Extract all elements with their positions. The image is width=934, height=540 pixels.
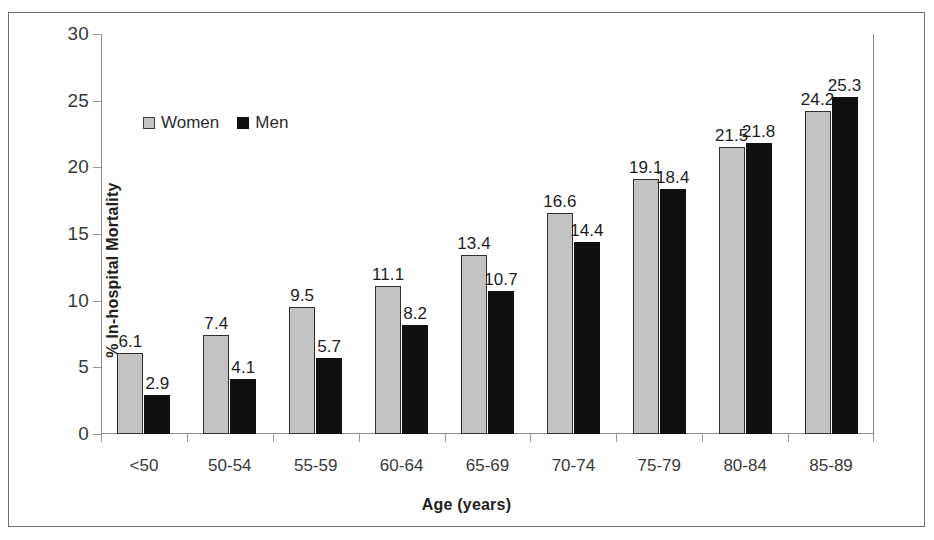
y-axis-tick-label: 0: [78, 423, 89, 445]
bar-group: 21.521.880-84: [702, 34, 788, 434]
x-axis-tick: [873, 434, 874, 442]
x-axis-tick: [359, 434, 360, 442]
bar-value-label: 2.9: [145, 374, 169, 394]
bar-women-<50[interactable]: 6.1: [117, 353, 143, 434]
bar-value-label: 9.5: [290, 286, 314, 306]
bar-value-label: 7.4: [204, 314, 228, 334]
y-axis-tick-label: 25: [67, 90, 89, 112]
bar-men-80-84[interactable]: 21.8: [746, 143, 772, 434]
y-axis-tick: [93, 34, 101, 35]
bar-value-label: 16.6: [543, 192, 577, 212]
bar-value-label: 6.1: [118, 332, 142, 352]
bar-group: 16.614.470-74: [530, 34, 616, 434]
bar-group: 19.118.475-79: [616, 34, 702, 434]
bar-value-label: 10.7: [484, 270, 518, 290]
bar-group: 7.44.150-54: [187, 34, 273, 434]
bar-men-50-54[interactable]: 4.1: [230, 379, 256, 434]
y-axis-tick-label: 20: [67, 156, 89, 178]
bar-men-75-79[interactable]: 18.4: [660, 189, 686, 434]
y-axis-tick: [93, 234, 101, 235]
bar-women-70-74[interactable]: 16.6: [547, 213, 573, 434]
bar-women-50-54[interactable]: 7.4: [203, 335, 229, 434]
bar-value-label: 14.4: [570, 221, 604, 241]
bar-group: 6.12.9<50: [101, 34, 187, 434]
bar-group: 13.410.765-69: [445, 34, 531, 434]
x-axis-tick: [616, 434, 617, 442]
bar-group: 9.55.755-59: [273, 34, 359, 434]
bar-group: 24.225.385-89: [788, 34, 874, 434]
y-axis-tick-label: 5: [78, 356, 89, 378]
bar-men-85-89[interactable]: 25.3: [832, 97, 858, 434]
bar-value-label: 13.4: [457, 234, 491, 254]
y-axis-tick: [93, 101, 101, 102]
bar-group: 11.18.260-64: [359, 34, 445, 434]
bar-value-label: 18.4: [656, 168, 690, 188]
x-axis-tick: [702, 434, 703, 442]
x-axis-title: Age (years): [9, 496, 924, 514]
x-axis-tick: [530, 434, 531, 442]
y-axis-tick: [93, 367, 101, 368]
chart-figure-frame: % In-hospital Mortality Women Men 051015…: [8, 12, 925, 527]
bar-women-80-84[interactable]: 21.5: [719, 147, 745, 434]
bar-women-60-64[interactable]: 11.1: [375, 286, 401, 434]
y-axis-tick-label: 15: [67, 223, 89, 245]
bar-value-label: 5.7: [317, 337, 341, 357]
bar-women-65-69[interactable]: 13.4: [461, 255, 487, 434]
y-axis-tick: [93, 167, 101, 168]
bar-value-label: 8.2: [403, 304, 427, 324]
y-axis-tick-label: 10: [67, 290, 89, 312]
x-axis-tick: [445, 434, 446, 442]
bar-men-55-59[interactable]: 5.7: [316, 358, 342, 434]
y-axis-tick: [93, 434, 101, 435]
bar-men-70-74[interactable]: 14.4: [574, 242, 600, 434]
x-axis-tick: [101, 434, 102, 442]
bar-value-label: 11.1: [372, 265, 404, 285]
x-axis-tick: [187, 434, 188, 442]
x-axis-tick: [788, 434, 789, 442]
bar-women-85-89[interactable]: 24.2: [805, 111, 831, 434]
bar-value-label: 21.8: [742, 122, 776, 142]
bar-value-label: 25.3: [828, 76, 862, 96]
bar-women-75-79[interactable]: 19.1: [633, 179, 659, 434]
bar-men-<50[interactable]: 2.9: [144, 395, 170, 434]
bar-women-55-59[interactable]: 9.5: [289, 307, 315, 434]
y-axis-tick: [93, 301, 101, 302]
y-axis-tick-label: 30: [67, 23, 89, 45]
bar-men-65-69[interactable]: 10.7: [488, 291, 514, 434]
bar-value-label: 4.1: [231, 358, 255, 378]
x-axis-tick: [273, 434, 274, 442]
plot-area: 051015202530 6.12.9<507.44.150-549.55.75…: [101, 34, 874, 434]
bar-men-60-64[interactable]: 8.2: [402, 325, 428, 434]
